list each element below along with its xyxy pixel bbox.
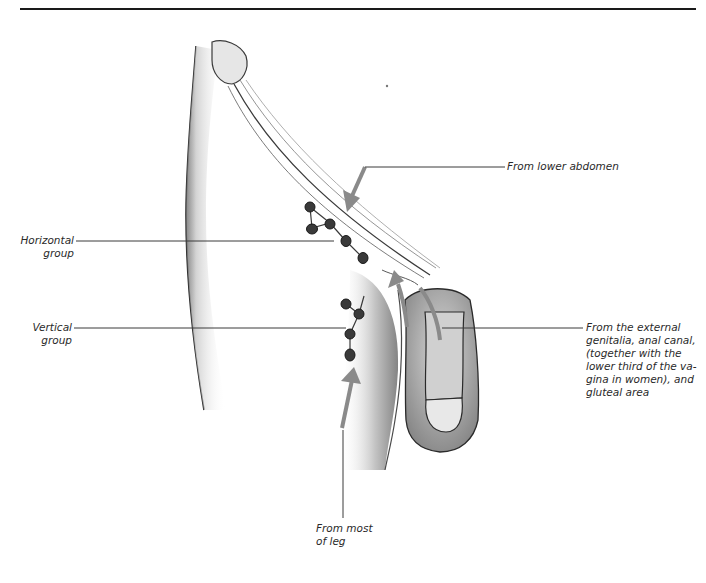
iliac-crest [212,41,247,84]
label-from-external-genitalia: From the external genitalia, anal canal,… [586,321,704,399]
label-line: From the external [586,321,704,334]
label-line: group [0,334,72,347]
label-vertical-group: Vertical group [0,321,72,347]
label-line: Horizontal [0,234,74,247]
label-line: (together with the [586,347,704,360]
label-from-most-of-leg: From most of leg [316,522,396,548]
label-from-lower-abdomen: From lower abdomen [507,160,697,173]
label-line: genitalia, anal canal, [586,334,704,347]
label-horizontal-group: Horizontal group [0,234,74,260]
label-line: group [0,247,74,260]
label-line: Vertical [0,321,72,334]
anatomical-illustration [0,0,706,583]
label-line: gluteal area [586,386,704,399]
arrow-from-lower-abdomen [343,167,365,212]
label-line: lower third of the va- [586,360,704,373]
inguinal-ligament [228,80,440,278]
label-line: From most [316,522,396,535]
hip-outline [186,46,226,410]
label-line: gina in women), and [586,373,704,386]
speck [386,85,388,87]
label-line: of leg [316,535,396,548]
